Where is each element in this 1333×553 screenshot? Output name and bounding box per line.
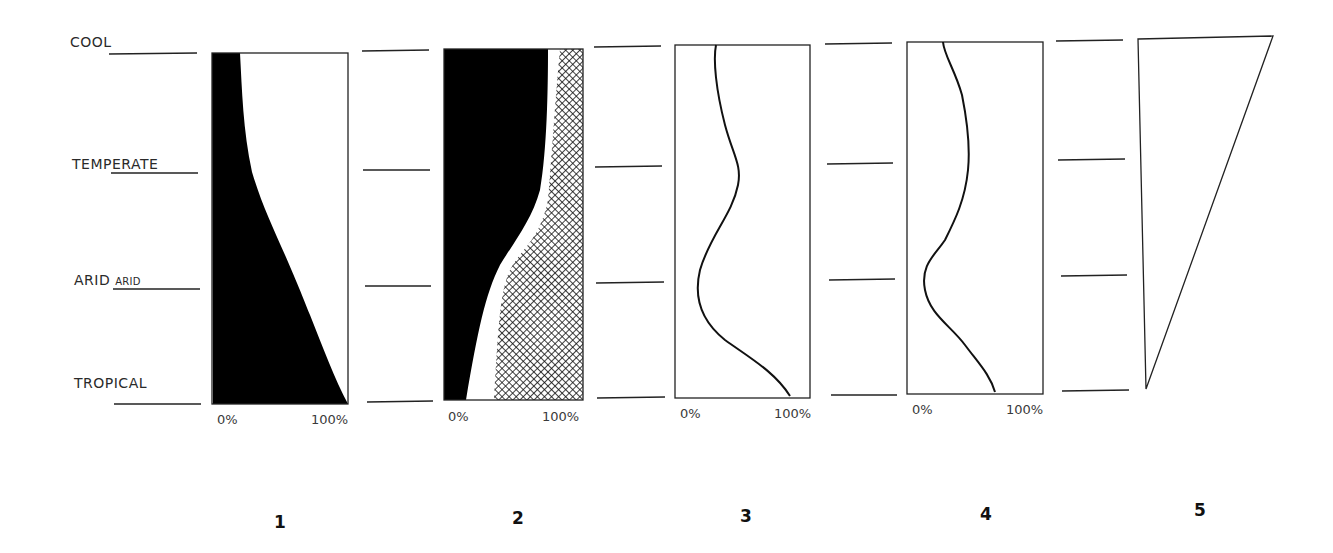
zone-label-tropical: TROPICAL <box>74 375 147 391</box>
zone-label-arid: ARID ARID <box>74 272 141 288</box>
panel-3-frame <box>675 45 810 398</box>
figure-canvas <box>0 0 1333 553</box>
panel-3-chart <box>675 45 810 398</box>
panel-2-number: 2 <box>512 508 524 528</box>
panel-5-triangle <box>1138 36 1273 389</box>
panel-2-axis-min: 0% <box>448 409 469 424</box>
panel-5-number: 5 <box>1194 500 1206 520</box>
zone-label-cool: COOL <box>70 34 112 50</box>
panel-4-axis-min: 0% <box>912 402 933 417</box>
panel-1-black-area <box>212 53 348 404</box>
panel-1-chart <box>212 53 348 404</box>
panel-3-number: 3 <box>740 506 752 526</box>
panel-3-axis-min: 0% <box>680 406 701 421</box>
panel-1-number: 1 <box>274 512 286 532</box>
zone-tick-lines-4-5 <box>1056 40 1129 391</box>
panel-2-axis-max: 100% <box>542 409 579 424</box>
panel-4-curve <box>924 42 995 392</box>
zone-tick-lines-left <box>109 53 201 404</box>
panel-5-chart <box>1138 36 1273 389</box>
panel-3-axis-max: 100% <box>774 406 811 421</box>
panel-2-chart <box>444 49 583 400</box>
panel-4-axis-max: 100% <box>1006 402 1043 417</box>
zone-tick-lines-1-2 <box>362 50 433 402</box>
panel-3-curve <box>698 45 790 396</box>
zone-label-arid-small: ARID <box>115 276 141 287</box>
panel-1-axis-max: 100% <box>311 412 348 427</box>
zone-label-arid-large: ARID <box>74 272 110 288</box>
zone-tick-lines-3-4 <box>825 43 897 395</box>
panel-4-chart <box>907 42 1043 394</box>
zone-tick-lines-2-3 <box>594 46 665 398</box>
panel-1-axis-min: 0% <box>217 412 238 427</box>
zone-label-temperate: TEMPERATE <box>72 156 158 172</box>
panel-4-frame <box>907 42 1043 394</box>
panel-4-number: 4 <box>980 504 992 524</box>
